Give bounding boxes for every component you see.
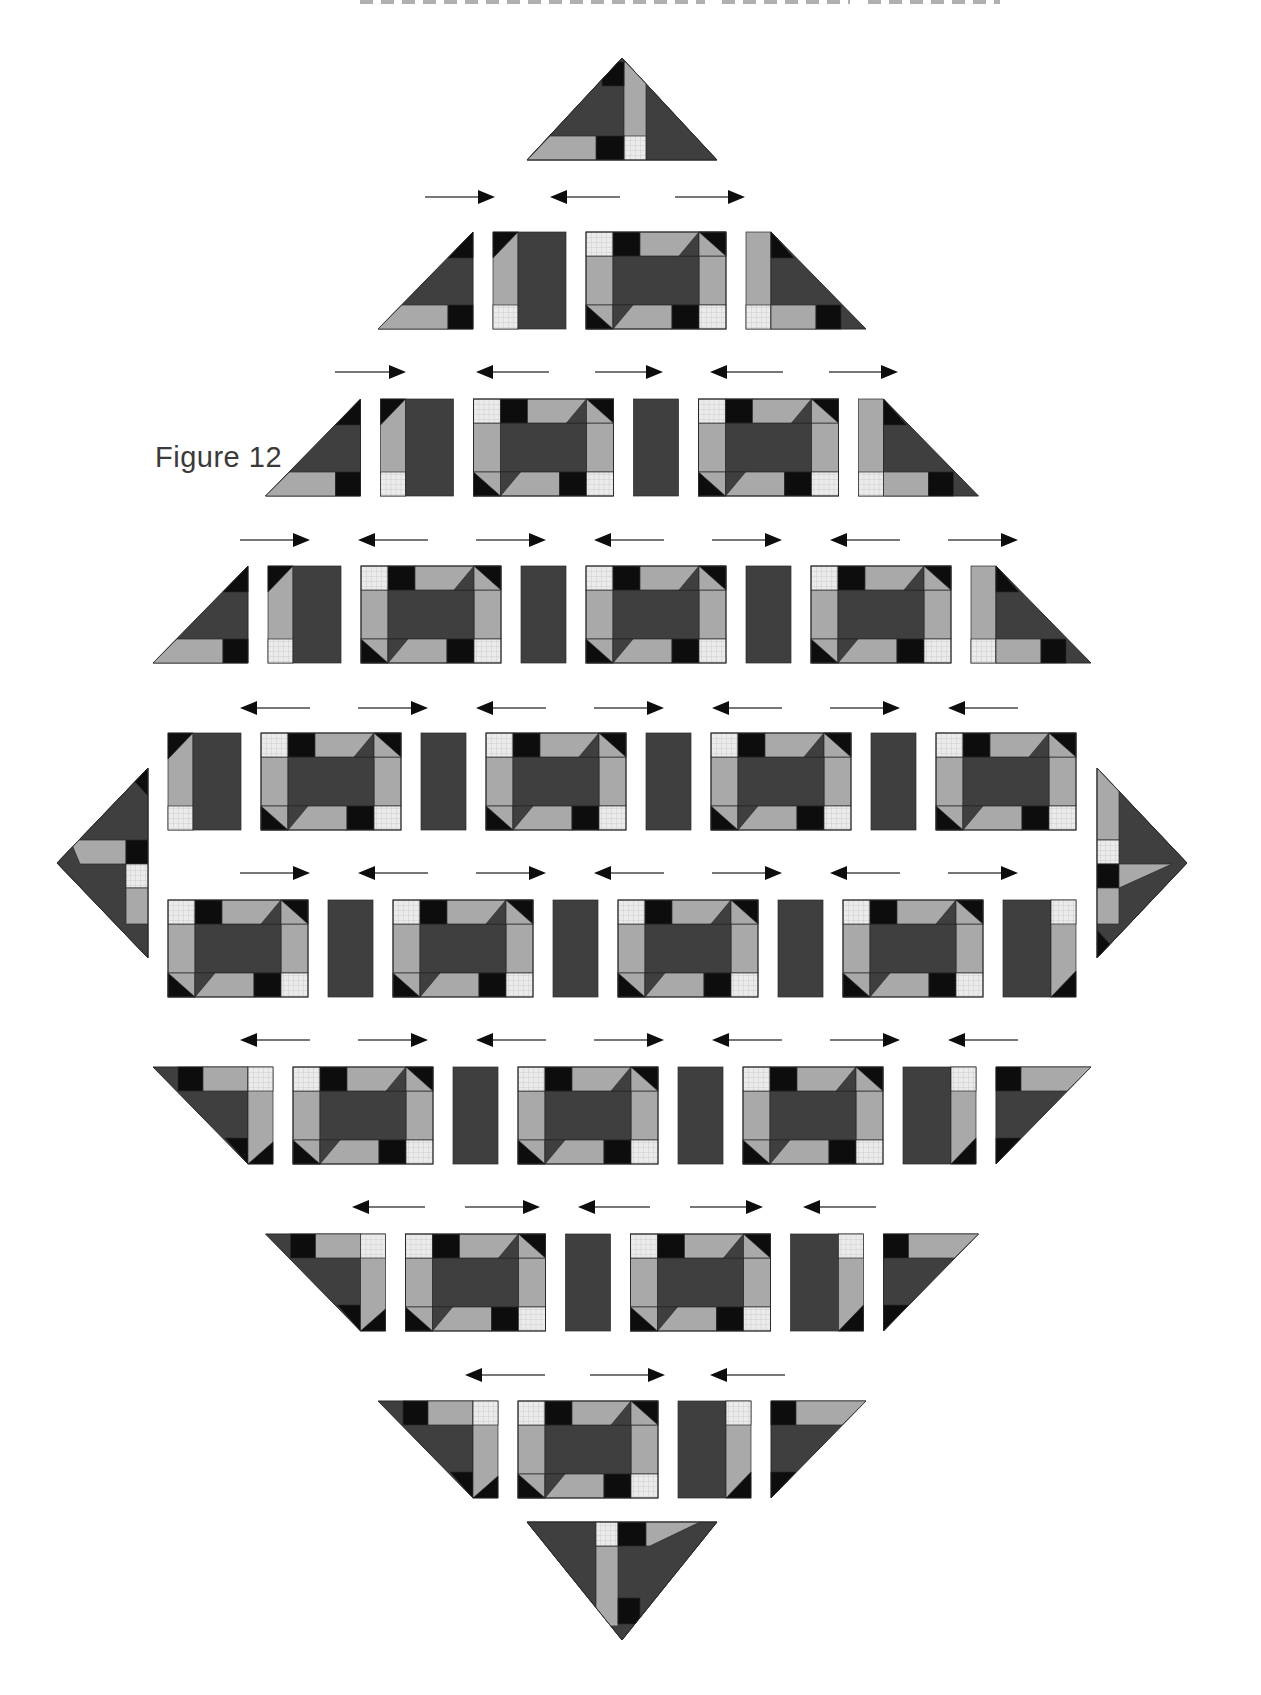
diagonal-row-2 [266,399,979,496]
quilt-block [743,1067,883,1164]
arrowhead-left-icon [578,1200,595,1214]
quilt-block [518,1067,658,1164]
quilt-block [261,733,401,830]
arrowhead-right-icon [1001,533,1018,547]
arrowhead-right-icon [293,533,310,547]
diagonal-row-1 [378,232,866,329]
arrowhead-right-icon [411,1033,428,1047]
quilt-block [486,733,626,830]
book-page: Figure 12 [0,0,1261,1695]
diagonal-row-7 [266,1234,979,1331]
diagonal-row-6 [153,1067,1091,1164]
pressing-arrow [948,866,1018,880]
arrowhead-right-icon [529,866,546,880]
pressing-arrow [712,1033,782,1047]
pressing-arrow [476,533,546,547]
pressing-arrow [829,365,898,379]
arrowhead-left-icon [594,866,611,880]
pressing-arrow [240,1033,310,1047]
sashing-strip [746,566,791,663]
pressing-arrow [358,701,428,715]
pressing-arrow [476,866,546,880]
diagonal-row-4 [168,733,1076,830]
arrowhead-left-icon [476,365,493,379]
arrowhead-right-icon [647,701,664,715]
pieced-edge-unit [791,1234,864,1331]
pressing-arrow [712,701,782,715]
quilt-block [843,900,983,997]
arrowhead-right-icon [883,701,900,715]
pressing-arrow [594,701,664,715]
sashing-strip [871,733,916,830]
pressing-arrow [710,1368,785,1382]
arrowhead-left-icon [830,533,847,547]
arrowhead-right-icon [646,365,663,379]
arrowhead-left-icon [710,365,727,379]
pressing-arrow [358,1033,428,1047]
diagonal-row-8 [378,1401,866,1498]
quilt-block [586,232,726,329]
setting-triangle-right [746,232,866,329]
pieced-edge-unit [493,232,566,329]
pressing-arrow [425,190,495,204]
sashing-strip [678,1067,723,1164]
pressing-arrow [712,866,782,880]
pressing-arrow [830,866,900,880]
pressing-arrow [465,1368,545,1382]
pressing-arrow [240,866,310,880]
pressing-arrow [690,1200,763,1214]
quilt-block [631,1234,771,1331]
arrowhead-left-icon [240,701,257,715]
pressing-arrow [578,1200,650,1214]
arrowhead-left-icon [352,1200,369,1214]
pressing-arrow [476,365,549,379]
pressing-arrow [240,533,310,547]
quilt-block [699,399,839,496]
diagonal-row-3 [153,566,1091,663]
pressing-arrow [712,533,782,547]
quilt-assembly-diagram [0,0,1261,1695]
pressing-arrow [948,533,1018,547]
corner-triangle-top [527,58,717,160]
arrowhead-right-icon [523,1200,540,1214]
setting-triangle-left [153,1067,273,1164]
arrowhead-right-icon [728,190,745,204]
pressing-arrow [335,365,406,379]
sashing-strip [328,900,373,997]
pressing-arrow [594,866,664,880]
pressing-arrow [590,1368,665,1382]
pressing-arrow [476,1033,546,1047]
arrowhead-right-icon [881,365,898,379]
quilt-block [711,733,851,830]
arrowhead-left-icon [712,701,729,715]
pressing-arrow [594,533,664,547]
pressing-arrow [948,701,1018,715]
arrowhead-right-icon [411,701,428,715]
quilt-block [293,1067,433,1164]
quilt-block [406,1234,546,1331]
quilt-block [618,900,758,997]
sashing-strip [521,566,566,663]
corner-triangle-right [1097,768,1187,958]
setting-triangle-left [153,566,248,663]
setting-triangle-right [884,1234,979,1331]
arrowhead-left-icon [803,1200,820,1214]
setting-triangle-right [859,399,979,496]
pressing-arrow [830,533,900,547]
pieced-edge-unit [268,566,341,663]
quilt-block [361,566,501,663]
arrowhead-left-icon [710,1368,727,1382]
sashing-strip [778,900,823,997]
quilt-block [168,900,308,997]
arrowhead-left-icon [550,190,567,204]
pressing-arrow [358,866,428,880]
sashing-strip [566,1234,611,1331]
pressing-arrow [550,190,620,204]
sashing-strip [453,1067,498,1164]
pieced-edge-unit [381,399,454,496]
pressing-arrow [240,701,310,715]
pressing-arrow [595,365,663,379]
pressing-arrow [948,1033,1018,1047]
setting-triangle-right [996,1067,1091,1164]
pressing-arrow [476,701,546,715]
